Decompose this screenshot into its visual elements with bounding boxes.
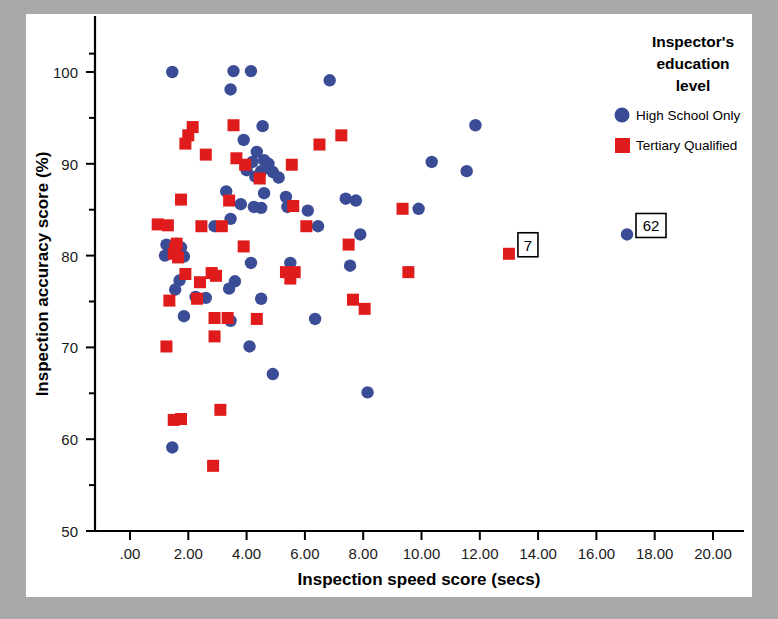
data-point: [179, 138, 191, 150]
data-point: [402, 266, 414, 278]
data-point: [166, 66, 178, 78]
data-point: [172, 251, 184, 263]
data-point: [286, 159, 298, 171]
x-tick-label: 2.00: [174, 545, 203, 562]
data-point: [254, 172, 266, 184]
legend-marker-tertiary-qualified: [615, 138, 630, 153]
legend-label-high-school-only: High School Only: [636, 108, 741, 123]
data-point: [503, 248, 515, 260]
data-point: [207, 460, 219, 472]
data-point: [227, 65, 239, 77]
data-point: [194, 276, 206, 288]
data-point: [209, 312, 221, 324]
scatter-plot: 5060708090100 .002.004.006.008.0010.0012…: [26, 14, 752, 597]
data-point: [214, 404, 226, 416]
legend-title-line-1: Inspector's: [652, 33, 734, 50]
data-point: [312, 220, 324, 232]
x-tick-label: 12.00: [461, 545, 499, 562]
data-point: [361, 386, 373, 398]
data-point: [210, 270, 222, 282]
legend-marker-high-school-only: [615, 108, 630, 123]
data-point: [166, 441, 178, 453]
y-tick-label: 80: [61, 248, 78, 265]
data-point: [350, 194, 362, 206]
case-label-text: 7: [524, 237, 532, 254]
data-point: [200, 149, 212, 161]
x-tick-label: 14.00: [519, 545, 557, 562]
y-tick-label: 60: [61, 431, 78, 448]
data-point: [169, 283, 181, 295]
data-point: [222, 312, 234, 324]
data-point: [209, 330, 221, 342]
data-point: [621, 228, 633, 240]
data-point: [178, 310, 190, 322]
data-point: [175, 413, 187, 425]
plot-background: [26, 14, 752, 597]
y-tick-label: 70: [61, 339, 78, 356]
y-axis-title: Inspection accuracy score (%): [33, 152, 52, 397]
data-point: [359, 303, 371, 315]
data-point: [469, 119, 481, 131]
x-tick-label: 4.00: [232, 545, 261, 562]
y-tick-label: 100: [53, 64, 78, 81]
data-point: [256, 120, 268, 132]
data-point: [160, 340, 172, 352]
x-tick-label: 18.00: [636, 545, 674, 562]
figure-panel: 5060708090100 .002.004.006.008.0010.0012…: [26, 14, 752, 597]
x-tick-label: 20.00: [694, 545, 732, 562]
data-point: [179, 268, 191, 280]
x-tick-label: 10.00: [403, 545, 441, 562]
data-point: [300, 220, 312, 232]
data-point: [216, 220, 228, 232]
data-point: [343, 239, 355, 251]
data-point: [223, 195, 235, 207]
data-point: [227, 119, 239, 131]
y-tick-label: 90: [61, 156, 78, 173]
data-point: [397, 203, 409, 215]
x-tick-label: 16.00: [578, 545, 616, 562]
data-point: [238, 240, 250, 252]
x-tick-label: 8.00: [349, 545, 378, 562]
data-point: [162, 219, 174, 231]
legend-title-line-3: level: [676, 77, 710, 94]
x-tick-label: 6.00: [290, 545, 319, 562]
data-point: [344, 259, 356, 271]
data-point: [224, 83, 236, 95]
data-point: [163, 295, 175, 307]
data-point: [313, 139, 325, 151]
data-point: [284, 273, 296, 285]
data-point: [237, 134, 249, 146]
case-label-text: 62: [643, 217, 660, 234]
data-point: [323, 74, 335, 86]
data-point: [302, 204, 314, 216]
data-point: [195, 220, 207, 232]
data-point: [347, 294, 359, 306]
data-point: [239, 159, 251, 171]
data-point: [245, 257, 257, 269]
data-point: [251, 313, 263, 325]
data-point: [309, 313, 321, 325]
data-point: [235, 198, 247, 210]
data-point: [245, 65, 257, 77]
data-point: [354, 228, 366, 240]
data-point: [243, 340, 255, 352]
data-point: [412, 203, 424, 215]
data-point: [175, 194, 187, 206]
data-point: [272, 171, 284, 183]
data-point: [335, 129, 347, 141]
legend-title-line-2: education: [656, 55, 729, 72]
data-point: [255, 293, 267, 305]
y-tick-label: 50: [61, 523, 78, 540]
data-point: [191, 293, 203, 305]
data-point: [267, 368, 279, 380]
x-axis-title: Inspection speed score (secs): [298, 570, 541, 589]
data-point: [152, 218, 164, 230]
data-point: [258, 187, 270, 199]
data-point: [287, 200, 299, 212]
data-point: [460, 165, 472, 177]
data-point: [426, 156, 438, 168]
x-tick-label: .00: [120, 545, 141, 562]
legend-label-tertiary-qualified: Tertiary Qualified: [636, 138, 737, 153]
data-point: [255, 202, 267, 214]
data-point: [223, 282, 235, 294]
